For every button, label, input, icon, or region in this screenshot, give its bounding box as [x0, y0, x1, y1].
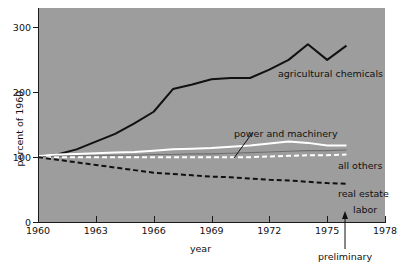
y-tick-200 [33, 92, 39, 93]
x-tick-1972 [269, 216, 270, 223]
x-tick-1969 [212, 216, 213, 223]
y-axis-line [38, 8, 39, 223]
x-tick-1975 [327, 216, 328, 223]
x-tick-1963 [96, 216, 97, 223]
x-tick-label-1960: 1960 [26, 225, 50, 236]
preliminary-label: preliminary [318, 251, 372, 262]
x-tick-1978 [385, 216, 386, 223]
y-tick-100 [33, 157, 39, 158]
y-axis-title: percent of 1960 [14, 89, 25, 169]
x-tick-1966 [154, 216, 155, 223]
x-tick-label-1975: 1975 [315, 225, 339, 236]
chart-figure: agricultural chemicals power and machine… [0, 0, 401, 273]
y-tick-0 [33, 222, 39, 223]
x-tick-label-1978: 1978 [373, 225, 397, 236]
leader-line-power-and-machinery [38, 8, 385, 222]
x-tick-label-1966: 1966 [142, 225, 166, 236]
x-tick-label-1969: 1969 [199, 225, 223, 236]
y-tick-300 [33, 27, 39, 28]
x-tick-label-1972: 1972 [257, 225, 281, 236]
y-tick-label-300: 300 [13, 22, 33, 33]
plot-area: agricultural chemicals power and machine… [38, 8, 385, 222]
x-tick-label-1963: 1963 [84, 225, 108, 236]
